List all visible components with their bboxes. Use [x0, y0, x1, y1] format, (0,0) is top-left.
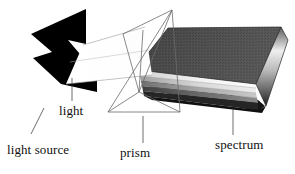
label-spectrum: spectrum — [215, 138, 263, 151]
prism-dispersion-figure: light light source prism spectrum — [0, 0, 295, 174]
prism-edge-base-left — [108, 92, 139, 112]
spectrum-slab — [138, 27, 288, 113]
label-light: light — [59, 104, 83, 117]
light-source-leader-line — [31, 108, 44, 134]
label-prism: prism — [120, 146, 150, 159]
label-light-source: light source — [7, 143, 69, 156]
